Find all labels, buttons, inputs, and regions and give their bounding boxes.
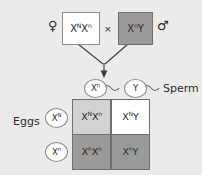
punnett-cell-affected-male: XnY — [112, 135, 149, 169]
venus-female-symbol: ♀ — [48, 19, 58, 32]
punnett-cell-affected-female: XnXn — [73, 135, 110, 169]
egg-gamete-circle-2: Xn — [45, 142, 68, 162]
parent-genotype-box-female: XNXn — [62, 12, 100, 45]
parent-genotype-box-male: XnY — [118, 12, 153, 45]
punnett-square-diagram: ♀ XNXn × XnY ♂ Xn Y Sperm Eggs XN Xn — [0, 0, 202, 175]
punnett-square-grid: XNXn XNY XnXn XnY — [72, 99, 150, 170]
egg-gamete-2-genotype: Xn — [52, 148, 61, 157]
male-parent-genotype: XnY — [127, 24, 143, 34]
cross-symbol: × — [104, 25, 112, 34]
egg-gamete-circle-1: XN — [45, 108, 68, 128]
sperm-gamete-1-genotype: Xn — [91, 84, 100, 93]
sperm-gamete-2-genotype: Y — [133, 84, 138, 93]
sperm-gamete-circle-1: Xn — [84, 79, 107, 98]
punnett-cell-1-genotype: XNXn — [81, 112, 102, 122]
punnett-cell-3-genotype: XnXn — [82, 147, 102, 157]
female-parent-genotype: XNXn — [70, 24, 92, 34]
punnett-cell-4-genotype: XnY — [123, 147, 139, 157]
sperm-gamete-circle-2: Y — [124, 79, 147, 98]
punnett-cell-normal-male: XNY — [112, 100, 149, 134]
egg-gamete-1-genotype: XN — [52, 114, 62, 123]
eggs-label: Eggs — [13, 116, 40, 127]
punnett-cell-2-genotype: XNY — [122, 112, 138, 122]
sperm-label: Sperm — [163, 83, 199, 94]
punnett-cell-carrier-female: XNXn — [73, 100, 110, 134]
mars-male-symbol: ♂ — [157, 19, 169, 32]
